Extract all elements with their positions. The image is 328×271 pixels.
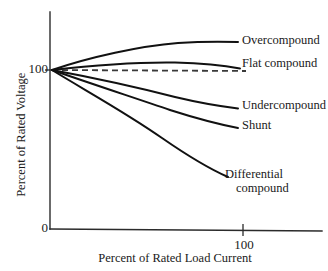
series-label-differential-compound: Differentialcompound (225, 168, 289, 195)
series-label-undercompound: Undercompound (242, 99, 326, 113)
y-axis-tick-label-0: 0 (30, 221, 48, 235)
series-label-differential-line1: Differential (225, 167, 283, 181)
chart-figure: 100 0 100 Percent of Rated Load Current … (0, 0, 328, 271)
series-label-flat-compound: Flat compound (242, 57, 317, 71)
x-axis-line (50, 229, 322, 231)
curve-differential-compound (52, 70, 228, 177)
curve-flat-compound (52, 62, 240, 70)
series-label-overcompound: Overcompound (242, 34, 320, 48)
curve-overcompound (52, 42, 238, 70)
curve-shunt (52, 70, 238, 128)
x-axis-tick-label-100: 100 (228, 238, 260, 252)
series-label-shunt: Shunt (242, 119, 271, 133)
series-label-differential-line2: compound (225, 182, 289, 196)
reference-line-dashed (52, 70, 246, 71)
curve-undercompound (52, 70, 238, 109)
y-axis-title: Percent of Rated Voltage (15, 55, 29, 215)
x-axis-title: Percent of Rated Load Current (50, 252, 300, 266)
